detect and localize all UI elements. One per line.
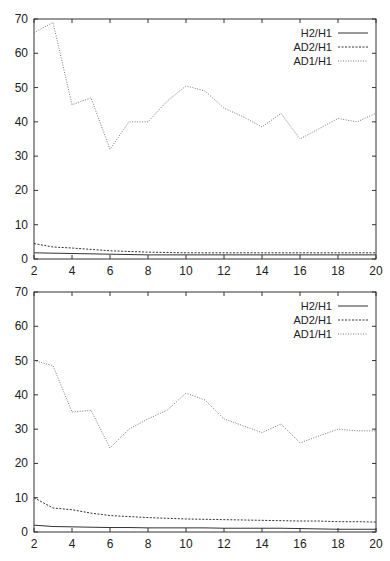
chart-top: 0102030405060702468101214161820H2/H1AD2/… <box>0 0 390 280</box>
y-tick-label: 30 <box>15 422 29 436</box>
chart-top-svg: 0102030405060702468101214161820H2/H1AD2/… <box>0 0 390 280</box>
y-tick-label: 50 <box>15 81 29 95</box>
y-tick-label: 50 <box>15 354 29 368</box>
x-tick-label: 10 <box>179 537 193 551</box>
legend-label: AD2/H1 <box>293 314 332 326</box>
legend-label: H2/H1 <box>301 300 332 312</box>
y-tick-label: 40 <box>15 388 29 402</box>
y-tick-label: 40 <box>15 115 29 129</box>
chart-bottom-svg: 0102030405060702468101214161820H2/H1AD2/… <box>0 273 390 561</box>
series-line-ad2-h1 <box>34 244 376 253</box>
y-tick-label: 60 <box>15 46 29 60</box>
x-tick-label: 4 <box>69 537 76 551</box>
y-tick-label: 70 <box>15 285 29 299</box>
legend-label: AD1/H1 <box>293 328 332 340</box>
y-tick-label: 0 <box>21 525 28 539</box>
y-tick-label: 20 <box>15 183 29 197</box>
y-tick-label: 30 <box>15 149 29 163</box>
x-tick-label: 14 <box>255 537 269 551</box>
legend-label: AD1/H1 <box>293 55 332 67</box>
y-tick-label: 10 <box>15 491 29 505</box>
y-tick-label: 10 <box>15 218 29 232</box>
series-line-ad1-h1 <box>34 361 376 448</box>
x-tick-label: 18 <box>331 537 345 551</box>
x-tick-label: 20 <box>369 537 383 551</box>
x-tick-label: 2 <box>31 537 38 551</box>
x-tick-label: 12 <box>217 537 231 551</box>
y-tick-label: 70 <box>15 12 29 26</box>
x-tick-label: 16 <box>293 537 307 551</box>
y-tick-label: 0 <box>21 252 28 266</box>
y-tick-label: 60 <box>15 319 29 333</box>
x-tick-label: 8 <box>145 537 152 551</box>
y-tick-label: 20 <box>15 456 29 470</box>
series-line-ad2-h1 <box>34 498 376 522</box>
series-line-h2-h1 <box>34 525 376 529</box>
x-tick-label: 6 <box>107 537 114 551</box>
legend-label: H2/H1 <box>301 27 332 39</box>
chart-bottom: 0102030405060702468101214161820H2/H1AD2/… <box>0 273 390 561</box>
legend-label: AD2/H1 <box>293 41 332 53</box>
